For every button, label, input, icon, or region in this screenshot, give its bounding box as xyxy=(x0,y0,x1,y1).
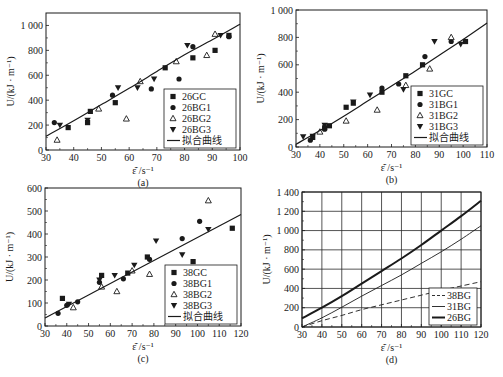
triangle-up-marker xyxy=(70,304,76,309)
y-tick-label: 0 xyxy=(37,321,42,332)
x-tick-label: 80 xyxy=(396,329,406,340)
triangle-up-marker xyxy=(147,271,153,276)
x-tick-label: 70 xyxy=(152,152,162,163)
circle-marker xyxy=(226,34,231,39)
triangle-up-marker xyxy=(114,288,120,293)
triangle-up-marker xyxy=(374,107,380,112)
circle-marker xyxy=(417,102,422,107)
square-marker xyxy=(171,270,176,275)
x-tick-label: 110 xyxy=(480,149,495,160)
circle-marker xyxy=(308,138,313,143)
square-marker xyxy=(190,55,195,60)
x-tick-label: 90 xyxy=(434,149,444,160)
circle-marker xyxy=(149,86,154,91)
legend-label: 26BG1 xyxy=(182,102,211,113)
x-tick-label: 60 xyxy=(357,329,367,340)
x-tick-label: 90 xyxy=(171,328,181,339)
legend: 26GC26BG126BG226BG3拟合曲线 xyxy=(164,89,236,148)
circle-marker xyxy=(379,85,384,90)
y-tick-label: 200 xyxy=(278,114,293,125)
y-axis-label: U/(kJ · m⁻¹) xyxy=(5,57,17,107)
y-tick-label: 1 000 xyxy=(21,20,44,31)
square-marker xyxy=(212,48,217,53)
x-tick-label: 100 xyxy=(190,328,205,339)
x-tick-label: 40 xyxy=(315,149,325,160)
y-tick-label: 300 xyxy=(27,252,42,263)
legend-label: 38BG2 xyxy=(183,289,212,300)
y-tick-label: 800 xyxy=(28,45,43,56)
triangle-up-marker xyxy=(123,116,129,121)
y-tick-label: 500 xyxy=(27,206,42,217)
legend-label: 31BG2 xyxy=(429,110,458,121)
panel-caption: (d) xyxy=(386,354,398,366)
x-tick-label: 120 xyxy=(474,329,489,340)
triangle-down-marker xyxy=(151,77,157,83)
y-tick-label: 0 xyxy=(288,142,293,153)
y-tick-label: 800 xyxy=(278,32,293,43)
triangle-down-marker xyxy=(134,85,140,91)
y-axis-label: U/(kJ · m⁻¹) xyxy=(4,232,16,282)
legend-label: 38GC xyxy=(183,267,207,278)
x-tick-label: 60 xyxy=(105,328,115,339)
panel-caption: (b) xyxy=(386,174,398,186)
y-tick-label: 100 xyxy=(27,298,42,309)
x-tick-label: 110 xyxy=(212,328,227,339)
y-tick-label: 1 000 xyxy=(277,225,300,236)
y-tick-label: 800 xyxy=(284,244,299,255)
legend-label: 31BG1 xyxy=(429,99,458,110)
y-tick-label: 1 400 xyxy=(277,187,300,198)
legend-label: 31GC xyxy=(429,88,453,99)
x-axis-label: ε̄̇ /s⁻¹ xyxy=(132,165,154,176)
x-tick-label: 70 xyxy=(377,329,387,340)
triangle-down-marker xyxy=(179,252,185,258)
square-marker xyxy=(230,226,235,231)
x-tick-label: 90 xyxy=(416,329,426,340)
x-tick-label: 50 xyxy=(337,329,347,340)
triangle-up-marker xyxy=(54,137,60,142)
circle-marker xyxy=(170,105,175,110)
triangle-up-marker xyxy=(403,82,409,87)
y-axis-label: U/(kJ · m⁻¹) xyxy=(255,54,267,104)
x-tick-label: 60 xyxy=(124,152,134,163)
triangle-up-marker xyxy=(448,34,454,39)
x-tick-label: 80 xyxy=(180,152,190,163)
triangle-down-marker xyxy=(367,93,373,99)
x-tick-label: 70 xyxy=(127,328,137,339)
square-marker xyxy=(66,125,71,130)
x-tick-label: 70 xyxy=(387,149,397,160)
x-axis-label: ε̄̇ /s⁻¹ xyxy=(381,342,403,353)
y-tick-label: 400 xyxy=(284,283,299,294)
y-tick-label: 600 xyxy=(27,183,42,194)
triangle-up-marker xyxy=(205,197,211,202)
x-tick-label: 80 xyxy=(410,149,420,160)
x-tick-label: 40 xyxy=(69,152,79,163)
legend-label: 拟合曲线 xyxy=(429,131,469,143)
legend-label: 26BG2 xyxy=(182,113,211,124)
legend: 38GC38BG138BG238BG3拟合曲线 xyxy=(165,265,237,324)
y-tick-label: 200 xyxy=(28,120,43,131)
square-marker xyxy=(170,94,175,99)
x-tick-label: 40 xyxy=(62,328,72,339)
y-tick-label: 600 xyxy=(278,59,293,70)
chart-panel-b: 3040506070809010011002004006008001 000ε̄… xyxy=(255,5,494,187)
legend-label: 38BG3 xyxy=(183,300,212,311)
triangle-down-marker xyxy=(153,239,159,245)
circle-marker xyxy=(176,76,181,81)
legend-label: 38BG1 xyxy=(183,278,212,289)
triangle-down-marker xyxy=(431,39,437,45)
x-tick-label: 80 xyxy=(149,328,159,339)
x-tick-label: 100 xyxy=(456,149,471,160)
square-marker xyxy=(344,105,349,110)
x-tick-label: 100 xyxy=(233,152,248,163)
triangle-down-marker xyxy=(400,87,406,93)
y-axis-label: U/(kJ · m⁻¹) xyxy=(261,235,273,285)
legend-label: 拟合曲线 xyxy=(183,310,223,322)
triangle-up-marker xyxy=(212,31,218,36)
square-marker xyxy=(190,259,195,264)
circle-marker xyxy=(180,236,185,241)
y-tick-label: 400 xyxy=(278,87,293,98)
chart-panel-c: 3040506070809010011012001002003004005006… xyxy=(4,183,249,366)
x-tick-label: 110 xyxy=(454,329,469,340)
y-tick-label: 1 200 xyxy=(277,206,300,217)
x-tick-label: 60 xyxy=(363,149,373,160)
